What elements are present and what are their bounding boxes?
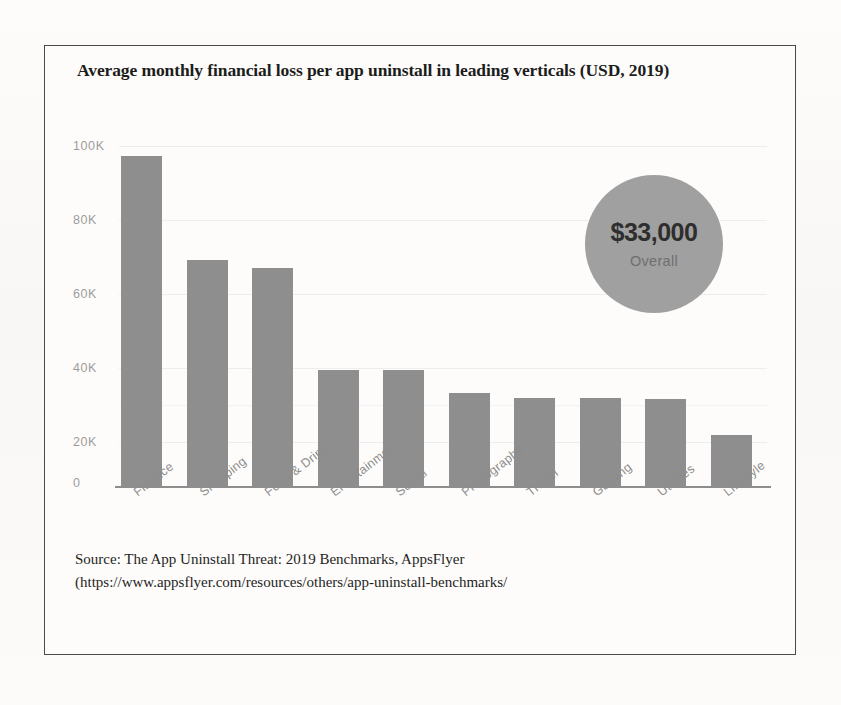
bar-finance <box>121 156 162 486</box>
y-tick-60k: 60K <box>73 287 119 301</box>
y-tick-0: 0 <box>73 476 119 490</box>
bar-food-drink <box>252 268 293 486</box>
y-tick-80k: 80K <box>73 213 119 227</box>
page-background: Average monthly financial loss per app u… <box>0 0 841 705</box>
overall-caption: Overall <box>630 254 678 269</box>
y-tick-20k: 20K <box>73 435 119 449</box>
source-line-2: (https://www.appsflyer.com/resources/oth… <box>75 571 765 594</box>
overall-callout-bubble: $33,000 Overall <box>585 175 723 313</box>
y-tick-100k: 100K <box>73 139 119 153</box>
figure-frame: Average monthly financial loss per app u… <box>44 45 796 655</box>
overall-value: $33,000 <box>611 220 698 245</box>
y-tick-40k: 40K <box>73 361 119 375</box>
source-note: Source: The App Uninstall Threat: 2019 B… <box>75 548 765 595</box>
bar-shopping <box>187 260 228 486</box>
source-line-1: Source: The App Uninstall Threat: 2019 B… <box>75 548 765 571</box>
plot-area: 100K 80K 60K 40K 20K 0 FinanceShoppingFo… <box>73 56 773 526</box>
